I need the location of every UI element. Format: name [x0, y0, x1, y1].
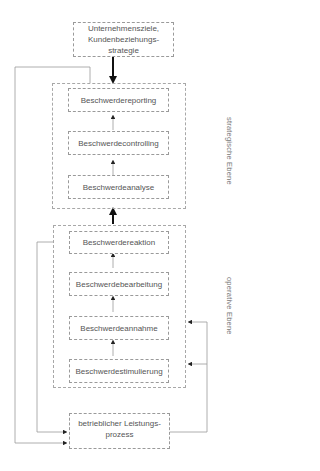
step-controlling: Beschwerdecontrolling — [68, 131, 169, 155]
step-reaction: Beschwerdereaktion — [69, 231, 169, 254]
step-processing: Beschwerdebearbeitung — [69, 272, 169, 296]
goals-strategy-box: Unternehmensziele, Kundenbeziehungs- str… — [73, 22, 174, 57]
operative-level-label: operative Ebene — [225, 277, 234, 335]
business-process-box: betrieblicher Leistungs- prozess — [69, 413, 170, 449]
step-acceptance: Beschwerdeannahme — [69, 316, 169, 340]
strategic-level-label: strategische Ebene — [225, 117, 234, 185]
step-stimulation: Beschwerdestimulierung — [69, 359, 169, 383]
step-reporting: Beschwerdereporting — [68, 88, 169, 112]
step-analysis: Beschwerdeanalyse — [68, 175, 169, 199]
